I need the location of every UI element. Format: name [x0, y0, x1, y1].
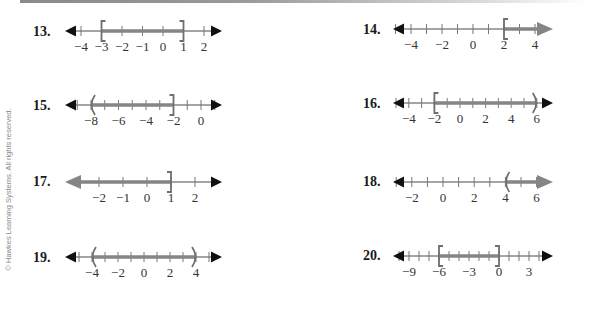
- tick-label: −3: [462, 264, 476, 279]
- tick-label: 0: [496, 264, 503, 279]
- number-line: −9−6−303: [0, 0, 589, 312]
- tick-label: −9: [402, 264, 416, 279]
- right-arrow-icon: [542, 251, 553, 262]
- tick-label: −6: [432, 264, 446, 279]
- tick-label: 3: [526, 264, 533, 279]
